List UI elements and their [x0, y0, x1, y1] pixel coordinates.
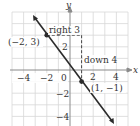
tick-x-neg2: −2 — [40, 73, 53, 83]
x-axis-arrow-icon — [127, 68, 132, 72]
tick-y-2: 2 — [62, 42, 68, 52]
run-label: right 3 — [49, 25, 80, 35]
tick-x-4: 4 — [113, 72, 119, 82]
tick-x-neg4: −4 — [17, 73, 31, 83]
y-axis-label: y — [65, 0, 72, 10]
coordinate-plane: −4 −2 0 2 4 2 −2 −4 y x (−2, 3) right 3 … — [0, 0, 140, 126]
tick-y-neg2: −2 — [56, 89, 69, 99]
rise-label: down 4 — [84, 55, 118, 65]
point-a-label: (−2, 3) — [8, 37, 40, 47]
tick-x-2: 2 — [90, 72, 96, 82]
tick-y-neg4: −4 — [56, 112, 70, 122]
point-b-label: (1, −1) — [91, 83, 123, 93]
point-b-marker — [79, 79, 84, 84]
tick-origin: 0 — [61, 73, 67, 83]
x-axis-label: x — [133, 65, 138, 75]
